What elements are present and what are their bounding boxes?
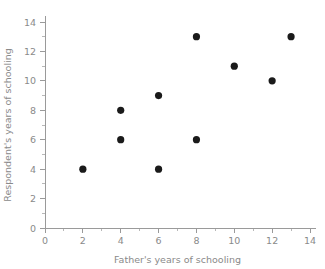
data-point: [117, 107, 124, 114]
x-tick-label: 12: [266, 235, 278, 246]
y-axis-tick-labels: 02468101214: [24, 17, 36, 234]
data-point: [79, 166, 86, 173]
x-tick-label: 14: [304, 235, 316, 246]
data-point: [155, 92, 162, 99]
y-tick-label: 0: [30, 223, 36, 234]
x-tick-label: 4: [118, 235, 124, 246]
y-tick-label: 2: [30, 193, 36, 204]
x-tick-label: 2: [80, 235, 86, 246]
y-tick-label: 8: [30, 105, 36, 116]
x-tick-label: 0: [42, 235, 48, 246]
y-tick-label: 6: [30, 134, 36, 145]
data-point: [155, 166, 162, 173]
x-axis-tick-labels: 02468101214: [42, 235, 316, 246]
chart-canvas: 02468101214 02468101214 Father's years o…: [0, 0, 325, 269]
x-tick-label: 6: [156, 235, 162, 246]
data-point: [287, 33, 294, 40]
data-point: [117, 136, 124, 143]
x-axis-title: Father's years of schooling: [114, 254, 241, 265]
x-tick-label: 10: [228, 235, 240, 246]
scatter-plot-figure: 02468101214 02468101214 Father's years o…: [0, 0, 325, 269]
y-tick-label: 14: [24, 17, 36, 28]
y-tick-label: 4: [30, 164, 36, 175]
data-point: [231, 63, 238, 70]
y-tick-label: 12: [24, 46, 36, 57]
y-axis-title: Respondent's years of schooling: [2, 48, 13, 202]
y-tick-label: 10: [24, 75, 36, 86]
data-point: [269, 77, 276, 84]
x-tick-label: 8: [193, 235, 199, 246]
data-point-series: [79, 33, 294, 173]
data-point: [193, 136, 200, 143]
data-point: [193, 33, 200, 40]
